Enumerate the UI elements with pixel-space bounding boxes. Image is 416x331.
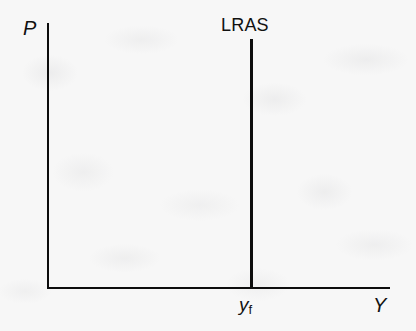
lras-diagram: P LRAS yf Y	[0, 0, 416, 331]
full-employment-output-label-subscript: f	[249, 302, 253, 317]
price-axis-line	[47, 23, 49, 289]
output-axis-line	[47, 287, 390, 289]
output-axis-label: Y	[373, 295, 386, 315]
lras-curve	[250, 39, 253, 289]
full-employment-output-label-base: y	[239, 294, 249, 315]
full-employment-output-label: yf	[239, 295, 252, 314]
lras-curve-label: LRAS	[221, 16, 269, 34]
price-axis-label: P	[23, 18, 36, 38]
